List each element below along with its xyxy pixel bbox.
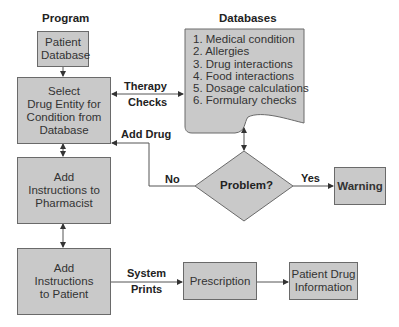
database-list: 1. Medical condition 2. Allergies 3. Dru… bbox=[193, 33, 309, 107]
yes-label: Yes bbox=[301, 172, 320, 185]
database-item: 1. Medical condition bbox=[193, 33, 309, 45]
patient-line-1: Add bbox=[54, 262, 74, 275]
select-drug-line-3: Condition from bbox=[27, 111, 102, 124]
patient-drug-info-node: Patient Drug Information bbox=[289, 262, 358, 300]
prints-label: Prints bbox=[131, 283, 162, 296]
select-drug-line-1: Select bbox=[48, 85, 80, 98]
database-item: 4. Food interactions bbox=[193, 70, 309, 82]
patient-drug-info-line-2: Information bbox=[295, 281, 353, 294]
select-drug-line-4: Database bbox=[39, 124, 88, 137]
program-title: Program bbox=[42, 12, 89, 24]
database-item: 2. Allergies bbox=[193, 45, 309, 57]
therapy-label: Therapy bbox=[124, 80, 167, 93]
select-drug-line-2: Drug Entity for bbox=[27, 98, 101, 111]
no-label: No bbox=[165, 173, 180, 186]
warning-label: Warning bbox=[337, 180, 383, 193]
pharmacist-line-1: Add bbox=[54, 171, 74, 184]
warning-node: Warning bbox=[334, 167, 386, 205]
pharmacist-line-3: Pharmacist bbox=[35, 197, 93, 210]
database-item: 3. Drug interactions bbox=[193, 58, 309, 70]
patient-line-3: to Patient bbox=[40, 288, 89, 301]
decision-label: Problem? bbox=[220, 179, 273, 191]
pharmacist-instructions-node: Add Instructions to Pharmacist bbox=[17, 157, 111, 224]
patient-database-node: Patient Database bbox=[37, 31, 89, 67]
database-item: 6. Formulary checks bbox=[193, 94, 309, 106]
system-label: System bbox=[127, 267, 166, 280]
prescription-node: Prescription bbox=[183, 262, 257, 300]
checks-label: Checks bbox=[128, 96, 167, 109]
prescription-label: Prescription bbox=[190, 275, 251, 288]
database-item: 5. Dosage calculations bbox=[193, 82, 309, 94]
patient-instructions-node: Add Instructions to Patient bbox=[17, 248, 111, 315]
add-drug-label: Add Drug bbox=[121, 128, 171, 141]
databases-title: Databases bbox=[219, 12, 277, 24]
patient-line-2: Instructions bbox=[35, 275, 94, 288]
select-drug-node: Select Drug Entity for Condition from Da… bbox=[17, 77, 111, 144]
patient-database-label: Patient Database bbox=[41, 36, 85, 62]
patient-drug-info-line-1: Patient Drug bbox=[292, 268, 356, 281]
pharmacist-line-2: Instructions to bbox=[28, 184, 100, 197]
